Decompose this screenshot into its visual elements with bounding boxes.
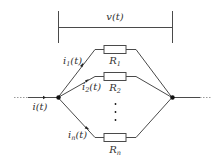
resistor-rn-label: Rn [108,144,121,155]
resistor-r2 [104,73,126,81]
resistor-r1 [104,46,126,54]
voltage-label: v(t) [106,11,124,22]
resistor-rn [104,134,126,142]
voltage-bracket: v(t) [59,11,173,43]
branch-n: in(t) Rn [58,98,172,156]
branch-1-current-label: i1(t) [63,55,82,68]
ellipsis [115,103,117,121]
branch-2-current-label: i2(t) [82,81,101,94]
resistor-r1-label: R1 [108,55,121,68]
left-node [56,95,60,99]
input-current-arrow-icon [43,96,46,99]
input-lead: i(t) [14,96,58,112]
right-node [170,95,174,99]
input-current-label: i(t) [32,101,47,112]
parallel-circuit-diagram: v(t) i(t) i1(t) R1 i2(t) R2 [0,0,223,155]
branch-2: i2(t) R2 [58,73,172,98]
branch-n-current-label: in(t) [68,129,87,142]
resistor-r2-label: R2 [108,82,121,95]
